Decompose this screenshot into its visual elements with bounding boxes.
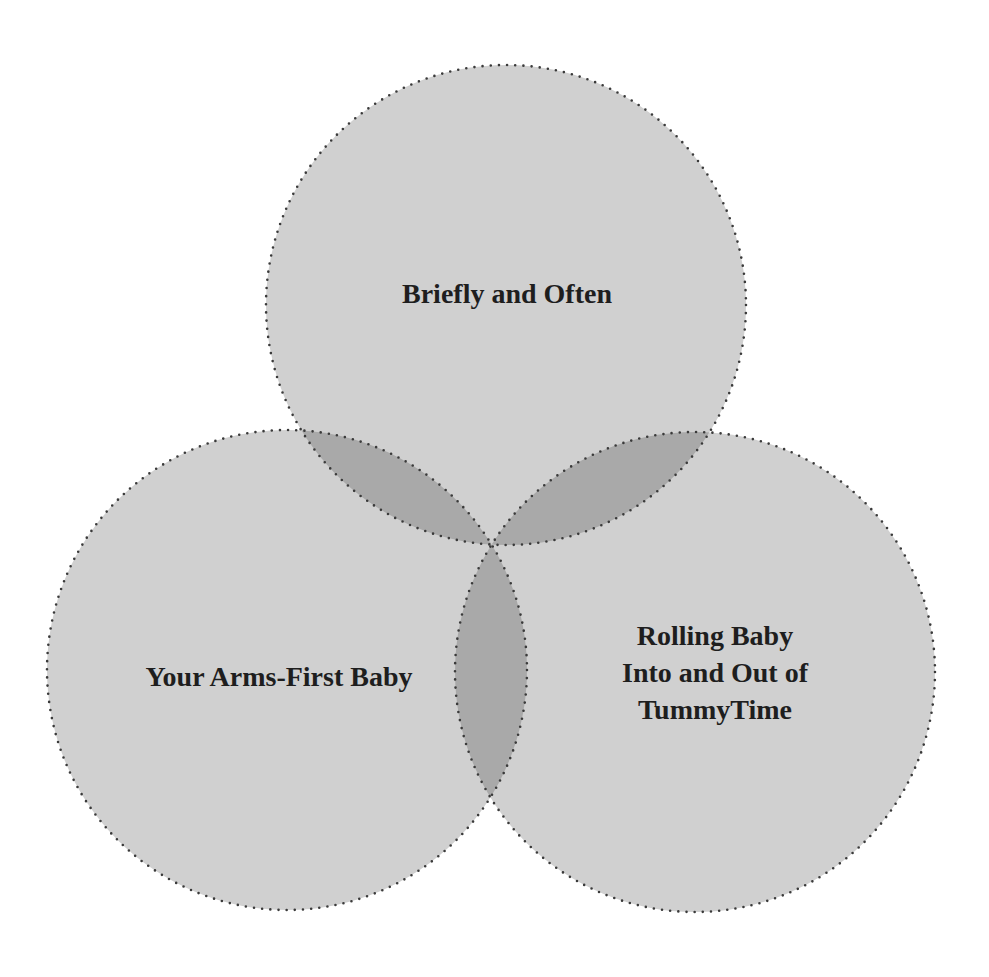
label-your-arms-first-baby: Your Arms-First Baby [145,658,412,695]
venn-diagram [0,0,989,977]
label-line: Rolling Baby [622,617,808,654]
label-line: Your Arms-First Baby [145,658,412,695]
label-line: TummyTime [622,691,808,728]
label-briefly-and-often: Briefly and Often [402,275,612,312]
label-line: Briefly and Often [402,275,612,312]
label-line: Into and Out of [622,654,808,691]
label-rolling-baby-tummytime: Rolling Baby Into and Out of TummyTime [622,617,808,728]
